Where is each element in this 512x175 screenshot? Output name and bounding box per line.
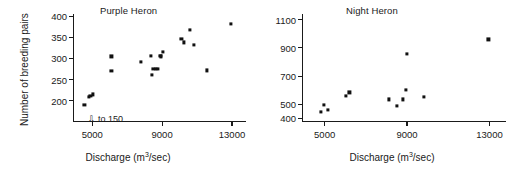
x-tick-right: [489, 122, 490, 126]
data-point: [161, 50, 164, 53]
data-point: [401, 98, 404, 101]
data-point: [149, 54, 152, 57]
x-tick-label-left: 13000: [219, 129, 245, 140]
x-tick-label-left: 5000: [82, 129, 103, 140]
data-point: [205, 69, 208, 72]
x-axis-line-right: [302, 121, 506, 122]
data-point: [348, 91, 351, 94]
x-tick-left: [162, 122, 163, 126]
x-axis-title-left-text: Discharge (m: [85, 152, 144, 163]
panel-night-heron: Night Heron Discharge (m3/sec) 400500700…: [256, 0, 512, 175]
data-point: [345, 94, 348, 97]
y-tick-label-right: 1100: [256, 14, 296, 25]
data-point: [140, 61, 143, 64]
data-point: [180, 37, 183, 40]
plot-area-purple-heron: [73, 14, 246, 122]
y-tick-left: [69, 37, 73, 38]
data-point: [404, 89, 407, 92]
data-point: [405, 53, 408, 56]
data-point: [156, 67, 159, 70]
x-axis-title-right-tail: /sec): [413, 152, 435, 163]
y-axis-line-left: [73, 14, 74, 122]
y-tick-right: [298, 47, 302, 48]
y-tick-label-right: 500: [256, 99, 296, 110]
data-point: [230, 22, 233, 25]
x-tick-label-right: 13000: [476, 129, 502, 140]
x-tick-label-left: 9000: [152, 129, 173, 140]
y-axis-title-left: Number of breeding pairs: [19, 13, 30, 126]
y-tick-left: [69, 16, 73, 17]
y-tick-label-left: 250: [27, 74, 67, 85]
y-tick-label-left: 200: [27, 95, 67, 106]
y-tick-left: [69, 79, 73, 80]
data-point: [92, 93, 95, 96]
x-axis-title-left: Discharge (m3/sec): [28, 152, 228, 163]
y-tick-label-left: 350: [27, 32, 67, 43]
axis-break-annotation: ⇩ to 150: [88, 114, 123, 124]
x-tick-right: [406, 122, 407, 126]
y-tick-label-left: 300: [27, 53, 67, 64]
data-point: [319, 111, 322, 114]
y-tick-right: [298, 19, 302, 20]
axis-break-annotation-label: to 150: [95, 114, 123, 124]
scatter-plot-figure: Purple Heron Number of breeding pairs Di…: [0, 0, 512, 175]
data-point: [150, 73, 153, 76]
data-point: [188, 29, 191, 32]
x-tick-left: [231, 122, 232, 126]
data-point: [182, 41, 185, 44]
x-tick-right: [324, 122, 325, 126]
y-axis-line-right: [302, 14, 303, 122]
y-tick-right: [298, 118, 302, 119]
y-tick-label-right: 400: [256, 113, 296, 124]
panel-purple-heron: Purple Heron Number of breeding pairs Di…: [0, 0, 256, 175]
x-axis-title-right: Discharge (m3/sec): [292, 152, 492, 163]
data-point: [110, 55, 113, 58]
y-tick-label-right: 900: [256, 42, 296, 53]
y-tick-left: [69, 58, 73, 59]
x-tick-label-right: 5000: [314, 129, 335, 140]
data-point: [83, 103, 86, 106]
data-point: [395, 105, 398, 108]
y-tick-right: [298, 104, 302, 105]
data-point: [422, 95, 425, 98]
y-tick-right: [298, 76, 302, 77]
data-point: [322, 103, 325, 106]
data-point: [110, 69, 113, 72]
y-tick-label-right: 700: [256, 71, 296, 82]
data-point: [160, 55, 163, 58]
x-tick-label-right: 9000: [397, 129, 418, 140]
x-axis-title-right-text: Discharge (m: [349, 152, 408, 163]
data-point: [326, 108, 329, 111]
data-point: [192, 43, 195, 46]
y-tick-left: [69, 100, 73, 101]
plot-area-night-heron: [302, 14, 506, 122]
data-point: [487, 38, 490, 41]
y-tick-label-left: 400: [27, 11, 67, 22]
data-point: [387, 98, 390, 101]
x-axis-title-left-tail: /sec): [149, 152, 171, 163]
